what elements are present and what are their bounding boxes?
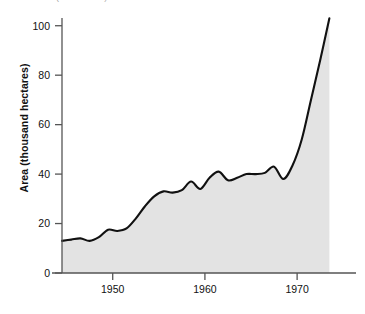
x-tick-label: 1960 <box>193 283 217 295</box>
x-axis-ticks: 195019601970 <box>101 273 309 295</box>
y-tick-label: 60 <box>38 118 50 130</box>
chart-figure: Australia (thousand ha) Area (thousand h… <box>0 0 365 314</box>
chart-plot-area: 020406080100 195019601970 <box>0 0 365 314</box>
y-tick-label: 80 <box>38 69 50 81</box>
x-tick-label: 1970 <box>285 283 309 295</box>
y-tick-label: 0 <box>44 267 50 279</box>
clipped-header-text: Australia (thousand ha) <box>22 0 107 2</box>
y-axis-label: Area (thousand hectares) <box>18 43 30 213</box>
y-tick-label: 40 <box>38 168 50 180</box>
y-tick-label: 20 <box>38 217 50 229</box>
y-axis-ticks: 020406080100 <box>32 20 62 279</box>
x-tick-label: 1950 <box>101 283 125 295</box>
y-tick-label: 100 <box>32 20 50 32</box>
